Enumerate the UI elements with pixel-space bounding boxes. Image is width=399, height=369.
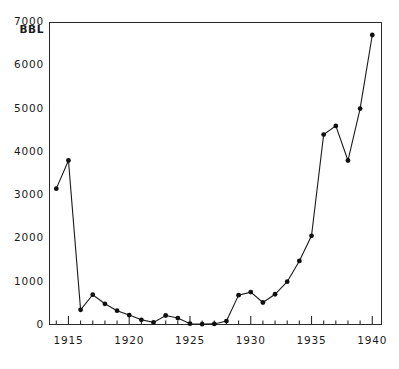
data-point-1940 xyxy=(370,33,375,38)
data-point-1927 xyxy=(212,322,217,327)
chart-plot-svg xyxy=(0,0,399,369)
data-point-1929 xyxy=(236,293,241,298)
data-point-1923 xyxy=(163,313,168,318)
data-point-1919 xyxy=(115,308,120,313)
data-point-1920 xyxy=(127,313,132,318)
data-point-1915 xyxy=(66,158,71,163)
data-line-bbl xyxy=(56,35,372,324)
data-point-1937 xyxy=(333,123,338,128)
data-point-1930 xyxy=(248,290,253,295)
data-point-1922 xyxy=(151,320,156,325)
data-point-1936 xyxy=(321,132,326,137)
data-point-1914 xyxy=(54,186,59,191)
data-point-1918 xyxy=(103,301,108,306)
data-point-1926 xyxy=(200,322,205,327)
chart-figure: BBL 70006000500040003000200010000 191519… xyxy=(0,0,399,369)
data-point-1933 xyxy=(285,279,290,284)
data-point-markers xyxy=(54,33,375,327)
data-point-1928 xyxy=(224,319,229,324)
data-point-1932 xyxy=(273,292,278,297)
data-point-1939 xyxy=(358,106,363,111)
data-point-1917 xyxy=(90,292,95,297)
data-point-1921 xyxy=(139,317,144,322)
data-point-1925 xyxy=(188,321,193,326)
data-point-1935 xyxy=(309,233,314,238)
data-point-1934 xyxy=(297,259,302,264)
data-point-1924 xyxy=(175,316,180,321)
data-point-1938 xyxy=(346,158,351,163)
data-point-1916 xyxy=(78,307,83,312)
data-point-1931 xyxy=(261,300,266,305)
